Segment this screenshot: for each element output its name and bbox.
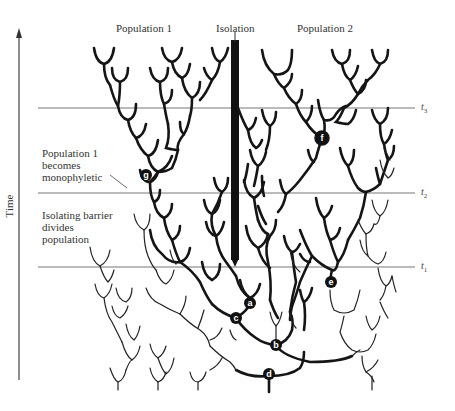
node-g: g — [140, 169, 152, 181]
svg-text:c: c — [233, 313, 238, 323]
svg-text:g: g — [143, 170, 149, 180]
annotation-pointer — [110, 175, 127, 188]
population1-lineages — [94, 48, 228, 182]
node-a: a — [244, 297, 256, 309]
label-monophyletic: Population 1 becomes monophyletic — [42, 147, 103, 183]
ancestral-lineages — [150, 110, 352, 392]
node-c: c — [230, 312, 242, 324]
label-population-2: Population 2 — [297, 22, 353, 34]
svg-text:e: e — [328, 277, 333, 287]
label-time-axis: Time — [3, 195, 15, 218]
svg-text:d: d — [266, 369, 272, 379]
node-e: e — [325, 276, 337, 288]
isolation-barrier — [231, 32, 239, 267]
label-t3: t3 — [421, 101, 427, 115]
label-isolation: Isolation — [216, 22, 255, 34]
node-b: b — [270, 339, 282, 351]
label-t1: t1 — [421, 260, 427, 274]
label-t2: t2 — [421, 186, 427, 200]
svg-text:b: b — [273, 340, 279, 350]
arrow-up-icon — [16, 28, 22, 38]
phylogeny-diagram: a b c d e f g — [0, 0, 455, 411]
label-population-1: Population 1 — [116, 22, 172, 34]
node-f: f — [315, 131, 329, 145]
extinct-lineages — [90, 148, 396, 390]
node-d: d — [263, 368, 275, 380]
label-barrier: Isolating barrier divides population — [42, 209, 113, 245]
time-axis — [16, 28, 22, 380]
